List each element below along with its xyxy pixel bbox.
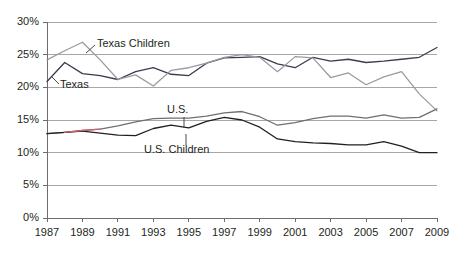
- x-axis-tick-label: 2007: [382, 226, 422, 238]
- x-axis-tick-label: 1993: [133, 226, 173, 238]
- x-axis-tick-label: 2009: [417, 226, 454, 238]
- series-label-texas-children: Texas Children: [97, 37, 170, 49]
- y-axis-tick-label: 5%: [0, 178, 39, 190]
- axes: [43, 22, 437, 222]
- x-axis-tick-label: 2003: [311, 226, 351, 238]
- series-line-u-s-children: [47, 117, 437, 152]
- y-axis-tick-label: 20%: [0, 80, 39, 92]
- x-axis-tick-label: 2001: [275, 226, 315, 238]
- y-axis-tick-label: 15%: [0, 113, 39, 125]
- x-axis-tick-label: 1989: [62, 226, 102, 238]
- series-line-u-s: [47, 109, 437, 134]
- y-axis-tick-label: 10%: [0, 146, 39, 158]
- y-axis-tick-label: 0%: [0, 211, 39, 223]
- x-axis-tick-label: 1999: [240, 226, 280, 238]
- x-axis-tick-label: 1995: [169, 226, 209, 238]
- x-axis-tick-label: 1991: [98, 226, 138, 238]
- series-label-texas: Texas: [60, 78, 89, 90]
- series-lines: [47, 42, 437, 152]
- annotation-leader-lines: [52, 45, 186, 145]
- series-label-u-s: U.S.: [167, 103, 188, 115]
- series-line-texas: [47, 47, 437, 81]
- y-axis-tick-label: 25%: [0, 48, 39, 60]
- x-axis-tick-label: 1997: [204, 226, 244, 238]
- x-axis-tick-label: 1987: [27, 226, 67, 238]
- y-axis-tick-label: 30%: [0, 15, 39, 27]
- series-label-u-s-children: U.S. Children: [144, 143, 209, 155]
- x-axis-tick-label: 2005: [346, 226, 386, 238]
